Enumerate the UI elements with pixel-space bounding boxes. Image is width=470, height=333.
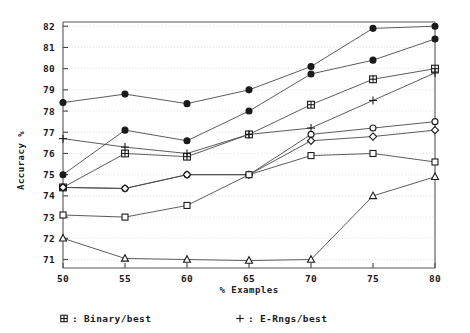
x-tick-label: 75 bbox=[367, 273, 379, 284]
y-tick-label: 82 bbox=[43, 21, 55, 32]
data-point-marker bbox=[184, 138, 190, 144]
legend-separator: : bbox=[72, 313, 78, 324]
data-point-marker bbox=[122, 127, 128, 133]
data-point-marker bbox=[370, 25, 376, 31]
data-point-marker bbox=[60, 172, 66, 178]
legend-label: Binary/best bbox=[84, 313, 151, 324]
data-point-marker bbox=[370, 150, 376, 156]
data-point-marker bbox=[184, 101, 190, 107]
y-tick-label: 80 bbox=[43, 63, 55, 74]
y-tick-label: 71 bbox=[43, 254, 55, 265]
x-tick-label: 65 bbox=[243, 273, 255, 284]
data-point-marker bbox=[308, 153, 314, 159]
data-point-marker bbox=[370, 125, 376, 131]
y-tick-label: 73 bbox=[43, 212, 55, 223]
data-point-marker bbox=[432, 119, 438, 125]
data-point-marker bbox=[246, 108, 252, 114]
y-tick-label: 79 bbox=[43, 84, 55, 95]
data-point-marker bbox=[60, 100, 66, 106]
x-axis-title: % Examples bbox=[219, 285, 278, 295]
y-axis-title: Accuracy % bbox=[16, 131, 26, 190]
x-tick-label: 70 bbox=[305, 273, 317, 284]
y-tick-label: 77 bbox=[43, 127, 55, 138]
y-tick-label: 72 bbox=[43, 233, 55, 244]
data-point-marker bbox=[122, 91, 128, 97]
data-point-marker bbox=[432, 23, 438, 29]
data-point-marker bbox=[184, 202, 190, 208]
chart-background bbox=[0, 0, 470, 333]
data-point-marker bbox=[370, 57, 376, 63]
legend-separator: : bbox=[248, 313, 254, 324]
y-tick-label: 81 bbox=[43, 42, 55, 53]
data-point-marker bbox=[246, 87, 252, 93]
data-point-marker bbox=[122, 214, 128, 220]
data-point-marker bbox=[60, 212, 66, 218]
data-point-marker bbox=[432, 159, 438, 165]
x-tick-label: 50 bbox=[57, 273, 69, 284]
y-tick-label: 78 bbox=[43, 106, 55, 117]
y-tick-label: 74 bbox=[43, 190, 55, 201]
accuracy-vs-examples-chart: 717273747576777879808182 50556065707580 … bbox=[0, 0, 470, 333]
data-point-marker bbox=[308, 101, 315, 108]
x-tick-label: 55 bbox=[119, 273, 131, 284]
data-point-marker bbox=[308, 64, 314, 70]
y-tick-label: 76 bbox=[43, 148, 55, 159]
data-point-marker bbox=[432, 36, 438, 42]
data-point-marker bbox=[61, 315, 67, 321]
data-point-marker bbox=[246, 172, 252, 178]
y-tick-label: 75 bbox=[43, 169, 55, 180]
legend-label: E-Rngs/best bbox=[260, 313, 327, 324]
data-point-marker bbox=[308, 71, 314, 77]
x-tick-label: 80 bbox=[429, 273, 441, 284]
data-point-marker bbox=[370, 76, 377, 83]
x-tick-label: 60 bbox=[181, 273, 193, 284]
